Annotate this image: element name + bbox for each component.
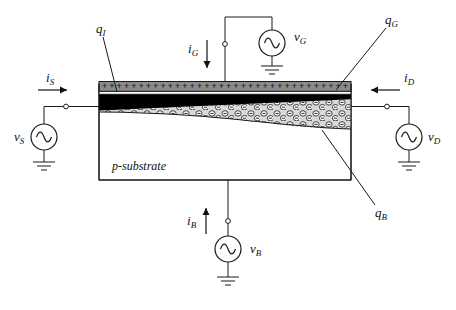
v-d-label: vD bbox=[428, 129, 441, 146]
i-s-label: iS bbox=[46, 70, 55, 87]
diagram-canvas: qI qG qB iS iD iG iB vS vD vG vB p-subst… bbox=[0, 0, 456, 310]
bulk-terminal-wire bbox=[226, 180, 231, 236]
q-g-label: qG bbox=[385, 12, 399, 29]
drain-terminal-wire bbox=[351, 104, 409, 124]
v-g-label: vG bbox=[294, 29, 307, 46]
i-b-label: iB bbox=[187, 213, 197, 230]
mosfet-charge-diagram: qI qG qB iS iD iG iB vS vD vG vB p-subst… bbox=[0, 0, 456, 310]
source-ac-source[interactable] bbox=[31, 124, 57, 170]
i-g-label: iG bbox=[188, 41, 199, 58]
source-terminal-wire bbox=[44, 104, 99, 124]
v-b-label: vB bbox=[250, 241, 262, 258]
q-i-label: qI bbox=[96, 21, 107, 38]
drain-ac-source[interactable] bbox=[396, 124, 422, 170]
bulk-ac-source[interactable] bbox=[215, 236, 241, 285]
gate-ac-source[interactable] bbox=[259, 30, 285, 74]
v-s-label: vS bbox=[14, 129, 25, 146]
q-g-leader-line bbox=[336, 28, 386, 90]
q-b-label: qB bbox=[375, 205, 388, 222]
substrate-label: p-substrate bbox=[111, 159, 167, 173]
i-d-label: iD bbox=[404, 70, 415, 87]
gate-electrode bbox=[99, 82, 351, 92]
